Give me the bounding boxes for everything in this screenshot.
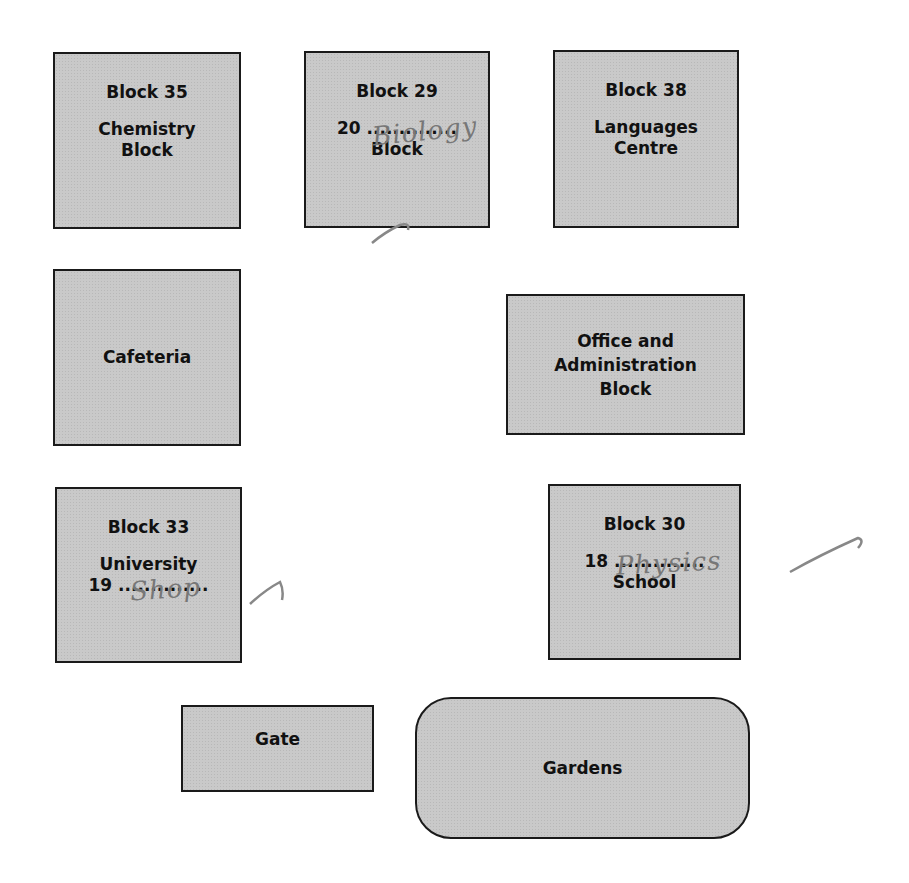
handwritten-answer-18: Physics [615,545,722,580]
building-number: Block 30 [604,514,685,535]
building-name: Cafeteria [103,347,191,368]
building-number: Block 33 [108,517,189,538]
handwritten-answer-19: Shop [129,572,202,607]
building-number: Block 38 [605,80,686,101]
gate-label: Gate [255,729,300,750]
building-number: Block 35 [106,82,187,103]
building-name: Office and [577,329,674,353]
building-number: Block 29 [356,81,437,102]
building-name: Administration [554,353,697,377]
building-name: Chemistry [98,119,195,140]
entrance-gate: Gate [181,705,374,792]
building-block-35: Block 35 Chemistry Block [53,52,241,229]
building-block-38: Block 38 Languages Centre [553,50,739,228]
building-office-administration: Office and Administration Block [506,294,745,435]
building-name: Centre [614,138,678,159]
gardens-label: Gardens [543,758,623,779]
building-name: Languages [594,117,698,138]
building-name: Block [600,377,652,401]
gardens-area: Gardens [415,697,750,839]
building-cafeteria: Cafeteria [53,269,241,446]
building-name: Block [121,140,173,161]
